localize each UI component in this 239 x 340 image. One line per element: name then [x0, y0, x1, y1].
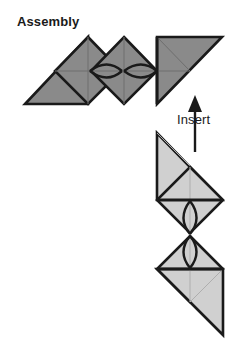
page-title: Assembly [17, 14, 79, 29]
assembly-diagram [0, 0, 239, 340]
insert-label: Insert [177, 112, 210, 127]
